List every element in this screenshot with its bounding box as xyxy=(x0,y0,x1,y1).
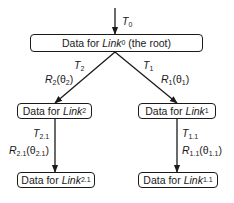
node-link2-link: Link xyxy=(63,106,82,117)
label-r1: R1(θ1) xyxy=(161,74,189,85)
label-r11-open: (θ xyxy=(199,144,208,156)
label-t1: T1 xyxy=(143,60,153,71)
label-r1-var: R xyxy=(161,73,169,85)
node-link21-link: Link xyxy=(62,175,81,186)
node-root-link: Link xyxy=(102,38,121,49)
label-r21-var: R xyxy=(9,144,17,156)
node-link2-prefix: Data for xyxy=(23,106,63,117)
node-link1: Data for Link1 xyxy=(138,103,216,119)
label-r21-close: ) xyxy=(45,144,49,156)
node-root: Data for Link0 (the root) xyxy=(30,34,203,52)
label-t11: T1.1 xyxy=(182,128,198,139)
node-link1-prefix: Data for xyxy=(145,106,185,117)
node-link21: Data for Link2.1 xyxy=(17,172,95,188)
label-r2-open: (θ xyxy=(57,73,66,85)
node-root-prefix: Data for xyxy=(62,38,102,49)
node-link11-prefix: Data for xyxy=(143,175,183,186)
label-t21-sub: 2.1 xyxy=(39,133,49,140)
label-r2-close: ) xyxy=(70,73,74,85)
label-r11-var: R xyxy=(182,144,190,156)
label-r1-close: ) xyxy=(186,73,190,85)
label-r21-argsub: 2.1 xyxy=(36,150,46,157)
label-r21-sub: 2.1 xyxy=(17,150,27,157)
node-link2: Data for Link2 xyxy=(17,103,92,119)
label-t1-sub: 1 xyxy=(149,65,153,72)
label-r11-close: ) xyxy=(218,144,222,156)
label-r21-open: (θ xyxy=(26,144,35,156)
node-link21-prefix: Data for xyxy=(21,175,61,186)
label-r11: R1.1(θ1.1) xyxy=(182,145,222,156)
label-t0-sub: 0 xyxy=(128,21,132,28)
label-t2: T2 xyxy=(74,60,84,71)
label-r11-sub: 1.1 xyxy=(190,150,200,157)
label-t2-sub: 2 xyxy=(80,65,84,72)
label-t11-sub: 1.1 xyxy=(188,133,198,140)
node-root-suffix: (the root) xyxy=(125,38,171,49)
label-r21: R2.1(θ2.1) xyxy=(9,145,49,156)
label-r2-var: R xyxy=(45,73,53,85)
node-link11-link: Link xyxy=(184,175,203,186)
label-t0: T0 xyxy=(122,16,132,27)
node-link11: Data for Link1.1 xyxy=(138,172,218,188)
label-r11-argsub: 1.1 xyxy=(209,150,219,157)
node-link1-link: Link xyxy=(186,106,205,117)
label-r1-open: (θ xyxy=(173,73,182,85)
label-t21: T2.1 xyxy=(33,128,49,139)
label-r2: R2(θ2) xyxy=(45,74,73,85)
